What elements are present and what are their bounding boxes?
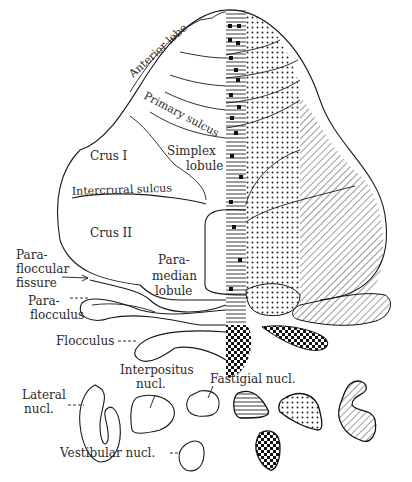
- pattern-nucleus-checker: [256, 431, 280, 470]
- label-paramedian-1: Para-: [158, 253, 190, 267]
- cerebellum-diagram: Anterior lobe Primary sulcus Crus I Simp…: [0, 0, 412, 482]
- label-interpositus-1: Interpositus: [120, 363, 194, 377]
- flocculus-left: [135, 331, 226, 361]
- paravermal-zone-dots: [245, 12, 300, 305]
- label-paramedian-3: lobule: [155, 284, 192, 298]
- pattern-nucleus-hatch: [339, 381, 376, 441]
- label-parafloccular-1: Para-: [16, 248, 48, 262]
- flocculus-right-checker: [262, 326, 328, 351]
- fastigial-nucleus: [187, 391, 219, 417]
- label-flocculus: Flocculus: [56, 334, 114, 348]
- pattern-nucleus-dots: [279, 394, 322, 430]
- label-fastigial: Fastigial nucl.: [210, 372, 296, 386]
- right-hemisphere-zones: [226, 10, 391, 378]
- pattern-nucleus-lines: [234, 391, 269, 418]
- label-paramedian-2: median: [152, 269, 197, 283]
- label-interpositus-2: nucl.: [136, 377, 166, 391]
- nodulus-zone-checker: [226, 325, 251, 378]
- label-simplex-2: lobule: [186, 159, 223, 173]
- label-simplex-1: Simplex: [167, 144, 216, 158]
- label-crus-1: Crus I: [90, 149, 128, 163]
- label-lateral-2: nucl.: [24, 402, 54, 416]
- parafloccular-arrow: [62, 277, 88, 278]
- label-crus-2: Crus II: [90, 226, 132, 240]
- label-parafloccular-2: floccular: [16, 262, 69, 276]
- vestibular-nucleus: [179, 441, 204, 471]
- lateral-zone-hatch: [295, 90, 383, 305]
- label-paraflocculus-2: flocculus: [30, 308, 84, 322]
- label-paraflocculus-1: Para-: [28, 294, 60, 308]
- label-vestibular: Vestibular nucl.: [59, 446, 155, 460]
- label-anterior-lobe: Anterior lobe: [126, 21, 190, 81]
- label-lateral-1: Lateral: [22, 388, 66, 402]
- paramedian-right-dots: [246, 284, 300, 316]
- interpositus-leader: [150, 395, 155, 408]
- label-parafloccular-3: fissure: [16, 276, 57, 290]
